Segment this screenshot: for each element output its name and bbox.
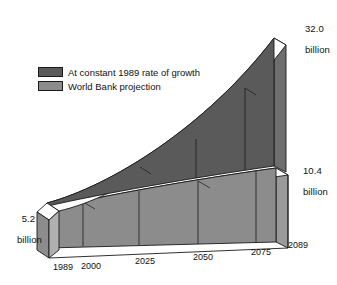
projection-end-value-label: 10.4 billion <box>292 155 328 208</box>
start-units: billion <box>17 234 42 245</box>
start-value-label: 5.2 billion <box>6 203 40 256</box>
growth-end-units: billion <box>305 44 330 55</box>
growth-end-value-label: 32.0 billion <box>294 13 330 66</box>
axis-label-2000: 2000 <box>81 261 101 271</box>
chart-canvas <box>0 0 337 285</box>
legend: At constant 1989 rate of growth World Ba… <box>38 66 200 94</box>
axis-label-2089: 2089 <box>288 240 308 250</box>
legend-item-growth[interactable]: At constant 1989 rate of growth <box>38 66 200 78</box>
axis-label-2050: 2050 <box>193 252 213 262</box>
start-value: 5.2 <box>22 213 36 224</box>
legend-swatch-growth <box>38 67 63 77</box>
population-growth-chart: At constant 1989 rate of growth World Ba… <box>0 0 337 285</box>
projection-end-value: 10.4 <box>303 165 322 176</box>
projection-right-side-face <box>276 168 288 248</box>
legend-swatch-projection <box>38 81 63 91</box>
origin-block-front-face <box>49 211 59 258</box>
axis-label-2075: 2075 <box>251 247 271 257</box>
axis-label-1989: 1989 <box>53 262 73 272</box>
axis-label-2025: 2025 <box>135 256 155 266</box>
projection-end-units: billion <box>303 186 328 197</box>
legend-label-growth: At constant 1989 rate of growth <box>68 67 200 78</box>
growth-end-value: 32.0 <box>305 23 324 34</box>
legend-label-projection: World Bank projection <box>68 81 161 92</box>
legend-item-projection[interactable]: World Bank projection <box>38 80 200 92</box>
